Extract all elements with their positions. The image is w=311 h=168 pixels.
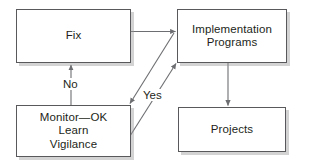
node-implementation-programs-label: Implementation Programs bbox=[188, 23, 276, 50]
flowchart-diagram: Fix Implementation Programs Monitor—OK L… bbox=[0, 0, 311, 168]
node-implementation-programs[interactable]: Implementation Programs bbox=[177, 9, 287, 63]
node-projects[interactable]: Projects bbox=[178, 107, 286, 152]
node-monitor-ok-learn-vigilance[interactable]: Monitor—OK Learn Vigilance bbox=[16, 105, 131, 157]
edge-label-no: No bbox=[62, 78, 79, 90]
node-fix-label: Fix bbox=[62, 29, 86, 43]
node-projects-label: Projects bbox=[207, 123, 257, 137]
node-fix[interactable]: Fix bbox=[16, 9, 131, 63]
edge-label-yes: Yes bbox=[142, 89, 163, 101]
node-monitor-ok-learn-vigilance-label: Monitor—OK Learn Vigilance bbox=[36, 111, 111, 152]
